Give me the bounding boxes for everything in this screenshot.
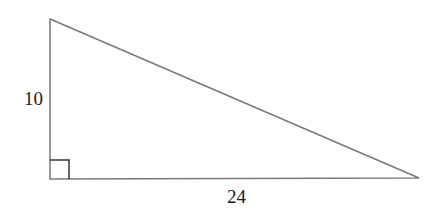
triangle-diagram: 10 24 [0, 0, 439, 217]
right-triangle [50, 19, 419, 179]
horizontal-leg-label: 24 [227, 186, 247, 207]
right-angle-marker [50, 160, 69, 179]
vertical-leg-label: 10 [24, 88, 43, 109]
